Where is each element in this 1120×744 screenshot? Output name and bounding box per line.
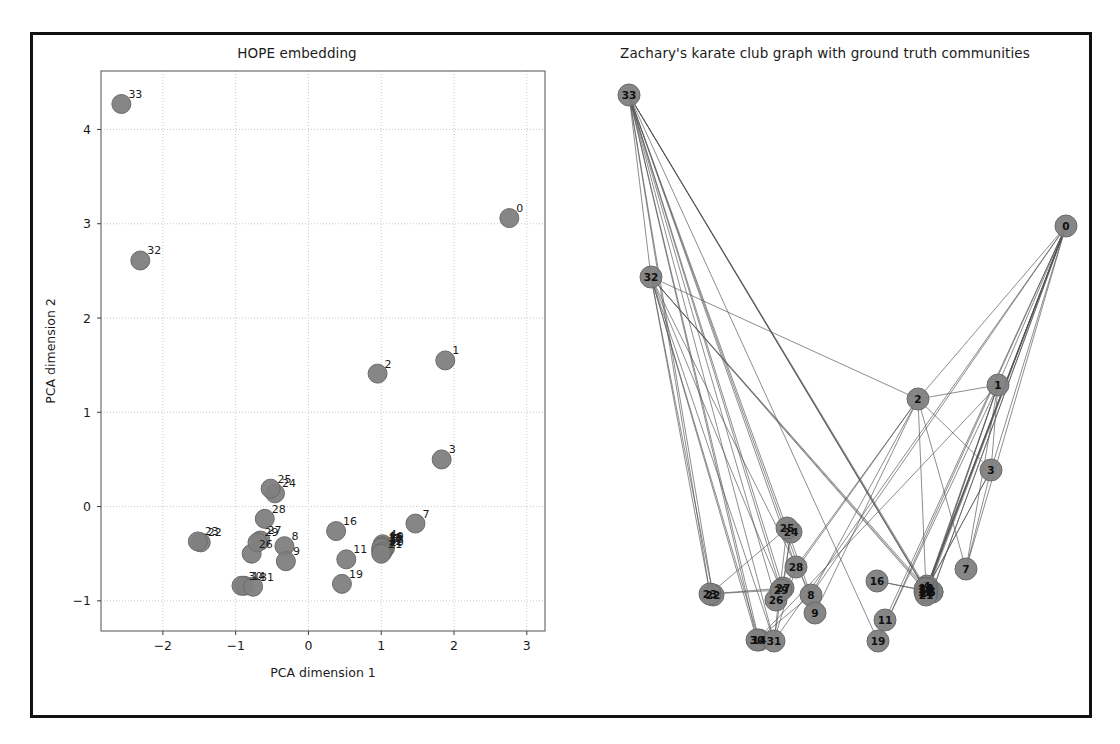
- graph-edge: [811, 226, 1066, 595]
- scatter-point-label: 26: [259, 538, 273, 551]
- y-axis-label: PCA dimension 2: [43, 298, 58, 403]
- graph-node-label: 3: [987, 464, 994, 476]
- x-tick-label: −1: [226, 638, 244, 653]
- scatter-point-label: 0: [516, 202, 523, 215]
- scatter-point-label: 28: [272, 503, 286, 516]
- graph-edge: [966, 226, 1066, 569]
- graph-edge: [629, 95, 878, 641]
- graph-edge: [918, 399, 926, 590]
- figure-page: HOPE embedding −2−10123−101234PCA dimens…: [0, 0, 1120, 744]
- scatter-point-label: 2: [385, 358, 392, 371]
- scatter-point-label: 21: [388, 538, 402, 551]
- graph-node-label: 19: [871, 635, 886, 647]
- graph-node-label: 29: [774, 584, 789, 596]
- karate-graph: 0123456789101112131415161718192021222324…: [561, 35, 1089, 715]
- graph-edge: [918, 385, 998, 399]
- panel-hope-embedding: HOPE embedding −2−10123−101234PCA dimens…: [33, 35, 561, 715]
- graph-edge: [918, 226, 1066, 399]
- graph-edge: [629, 95, 774, 641]
- graph-node-label: 30: [750, 634, 765, 646]
- scatter-point-label: 11: [353, 543, 367, 556]
- scatter-point-label: 33: [128, 88, 142, 101]
- graph-edge: [991, 226, 1066, 470]
- graph-edge: [629, 95, 710, 594]
- graph-node-label: 7: [962, 563, 969, 575]
- x-axis-label: PCA dimension 1: [270, 665, 375, 680]
- plot-area-background: [101, 71, 545, 631]
- graph-edge: [796, 399, 918, 567]
- graph-edge: [629, 95, 757, 640]
- x-tick-label: −2: [154, 638, 172, 653]
- graph-node-label: 9: [811, 607, 818, 619]
- scatter-point-label: 3: [449, 443, 456, 456]
- graph-edge: [998, 226, 1066, 385]
- graph-node-label: 21: [919, 589, 934, 601]
- graph-node-label: 0: [1062, 220, 1069, 232]
- y-tick-label: 1: [83, 405, 91, 420]
- figure-frame: HOPE embedding −2−10123−101234PCA dimens…: [30, 32, 1092, 718]
- x-tick-label: 1: [377, 638, 385, 653]
- panel-karate-graph: Zachary's karate club graph with ground …: [561, 35, 1089, 715]
- graph-node-label: 23: [703, 588, 718, 600]
- graph-edge: [651, 277, 918, 399]
- graph-node-label: 28: [789, 561, 804, 573]
- graph-edge: [629, 95, 651, 277]
- scatter-point-label: 23: [205, 525, 219, 538]
- scatter-point-label: 1: [452, 344, 459, 357]
- graph-node-label: 16: [870, 575, 885, 587]
- graph-node-label: 11: [878, 614, 893, 626]
- y-tick-label: −1: [73, 593, 91, 608]
- graph-node-label: 25: [780, 522, 795, 534]
- scatter-point-label: 8: [291, 530, 298, 543]
- graph-edge: [932, 226, 1066, 592]
- graph-node-label: 31: [767, 635, 782, 647]
- scatter-point-label: 16: [343, 515, 357, 528]
- scatter-point-label: 32: [147, 244, 161, 257]
- x-tick-label: 2: [450, 638, 458, 653]
- graph-edge: [966, 470, 991, 569]
- scatter-point-label: 31: [260, 571, 274, 584]
- y-tick-label: 0: [83, 499, 91, 514]
- graph-nodes: 0123456789101112131415161718192021222324…: [618, 84, 1077, 652]
- graph-edges: [629, 95, 1066, 641]
- panel-title-hope: HOPE embedding: [33, 45, 561, 61]
- x-tick-label: 3: [523, 638, 531, 653]
- graph-edge: [918, 399, 991, 470]
- graph-edge: [651, 277, 781, 590]
- scatter-point-label: 25: [278, 473, 292, 486]
- scatter-plot: −2−10123−101234PCA dimension 1PCA dimens…: [33, 35, 561, 715]
- scatter-point-label: 7: [422, 508, 429, 521]
- y-tick-label: 2: [83, 311, 91, 326]
- graph-edge: [811, 399, 918, 595]
- graph-node-label: 8: [807, 589, 814, 601]
- graph-node-label: 33: [622, 89, 637, 101]
- scatter-point-label: 19: [349, 568, 363, 581]
- scatter-point-label: 29: [264, 526, 278, 539]
- graph-edge: [629, 95, 781, 590]
- panel-title-karate: Zachary's karate club graph with ground …: [561, 45, 1089, 61]
- x-tick-label: 0: [304, 638, 312, 653]
- y-tick-label: 4: [83, 122, 91, 137]
- graph-node-label: 1: [994, 379, 1001, 391]
- y-tick-label: 3: [83, 216, 91, 231]
- graph-node-label: 2: [914, 393, 921, 405]
- graph-node-label: 32: [644, 271, 659, 283]
- scatter-point-label: 9: [293, 545, 300, 558]
- graph-edge: [757, 385, 998, 640]
